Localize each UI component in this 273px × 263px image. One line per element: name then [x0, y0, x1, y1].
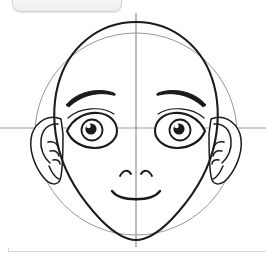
right-eye-highlight [174, 124, 178, 128]
tutorial-page [0, 0, 273, 263]
face-drawing-canvas [0, 0, 273, 263]
left-eye-highlight [86, 124, 90, 128]
bottom-separator [8, 251, 266, 252]
